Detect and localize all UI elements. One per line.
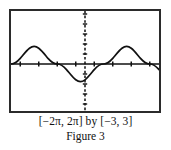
sine-curve-plot — [11, 11, 159, 111]
figure-number-label: Figure 3 — [0, 129, 171, 144]
figure-3-container: [−2π, 2π] by [−3, 3] Figure 3 — [0, 0, 171, 150]
viewing-window-caption: [−2π, 2π] by [−3, 3] — [0, 114, 171, 129]
graphing-calculator-screen — [9, 9, 161, 113]
caption-block: [−2π, 2π] by [−3, 3] Figure 3 — [0, 114, 171, 144]
